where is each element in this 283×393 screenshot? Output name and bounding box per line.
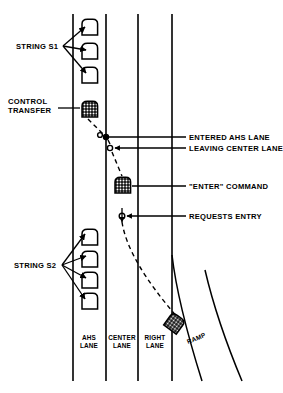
center-lane-label-line2: LANE [113,342,132,349]
vehicle-ramp [164,312,186,334]
diagram-canvas: STRING S1 CONTROL TRANSFER [0,0,283,393]
trajectory-segment-from-ramp [122,222,178,318]
ahs-lane-entry-diagram: STRING S1 CONTROL TRANSFER [0,0,283,393]
marker-entered-ahs-lane-secondary [98,133,103,138]
vehicle-control-transfer [82,101,98,117]
string-s1-label: STRING S1 [16,42,59,51]
ramp-curves-group [172,255,242,381]
vehicle-enter-command [115,177,131,193]
marker-leaving-center-lane [107,145,112,150]
string-s1-vehicles [82,19,98,83]
marker-entered-ahs-lane [103,134,108,139]
ramp-outer-curve [205,270,242,381]
ahs-lane-label-line2: LANE [80,342,99,349]
vehicle-s2-4 [82,293,98,309]
trajectory-segment-to-enter-command [112,152,122,176]
control-transfer-group: CONTROL TRANSFER [8,97,98,117]
control-transfer-label-line2: TRANSFER [8,106,52,115]
vehicle-s2-1 [82,229,98,245]
vehicle-s1-3 [82,67,98,83]
right-lane-label-line1: RIGHT [145,334,166,341]
leaving-center-lane-label: LEAVING CENTER LANE [189,144,283,153]
vehicle-s1-2 [82,43,98,59]
ramp-label: RAMP [186,331,207,345]
vehicle-s2-3 [82,272,98,288]
right-lane-label-line2: LANE [146,342,165,349]
enter-command-label: "ENTER" COMMAND [189,182,269,191]
entered-ahs-lane-label: ENTERED AHS LANE [189,133,270,142]
ahs-lane-label-line1: AHS [82,334,97,341]
vehicle-s2-2 [82,251,98,267]
entry-trajectory-group [88,119,178,318]
requests-entry-label: REQUESTS ENTRY [189,212,262,221]
string-s1-arrow-1 [63,27,85,46]
string-s2-label: STRING S2 [14,261,56,270]
control-transfer-label-line1: CONTROL [8,97,47,106]
center-lane-label-line1: CENTER [108,334,136,341]
